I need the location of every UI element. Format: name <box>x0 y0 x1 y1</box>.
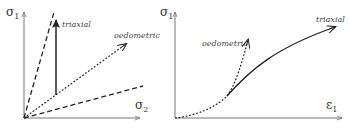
triaxial-label: triaxial <box>62 20 91 29</box>
right-x-axis-label: ε1 <box>326 98 337 114</box>
oedometric-label: oedometric <box>114 31 160 40</box>
right-panel: σ1 ε1 oedometric triaxial <box>160 5 345 118</box>
oedometric-curve <box>175 40 248 118</box>
right-y-axis-label: σ1 <box>160 5 173 21</box>
triaxial-curve-label: triaxial <box>316 15 345 24</box>
upper-dashed-line <box>24 12 54 118</box>
lower-dashed-line <box>24 86 143 118</box>
stress-path-diagram: σ1 σ2 triaxial oedometric σ1 ε1 oedometr… <box>0 0 350 128</box>
left-panel: σ1 σ2 triaxial oedometric <box>6 5 160 118</box>
left-x-axis-label: σ2 <box>135 98 148 114</box>
left-y-axis-label: σ1 <box>6 5 19 21</box>
oedometric-path <box>24 44 126 118</box>
triaxial-curve <box>227 27 335 96</box>
oedometric-curve-label: oedometric <box>202 39 248 48</box>
